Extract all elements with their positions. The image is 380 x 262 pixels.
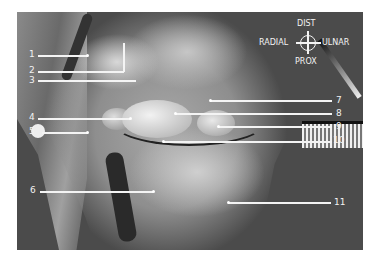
probe-instrument (317, 39, 361, 99)
label-4: 4 (29, 113, 35, 122)
leader-line-4 (38, 118, 130, 120)
compass-prox: PROX (295, 58, 317, 66)
label-6: 6 (30, 186, 36, 195)
leader-line-5 (42, 132, 88, 134)
label-7: 7 (336, 96, 342, 105)
leader-line-10 (163, 141, 332, 143)
leader-dot-5 (86, 131, 89, 134)
leader-line-9 (218, 126, 332, 128)
leader-line-2-vertical (123, 43, 125, 72)
leader-dot-1 (86, 54, 89, 57)
label-8: 8 (336, 109, 342, 118)
label-3: 3 (29, 76, 35, 85)
leader-line-11 (228, 202, 331, 204)
leader-dot-7 (209, 99, 212, 102)
leader-line-8 (175, 113, 332, 115)
compass-horizontal-axis (296, 42, 321, 44)
label-1: 1 (29, 50, 35, 59)
leader-line-3 (38, 80, 136, 82)
joint-crease (112, 98, 266, 146)
compass-radial: RADIAL (259, 39, 288, 47)
label-2: 2 (29, 66, 35, 75)
leader-line-2 (38, 71, 124, 73)
leader-line-1 (38, 55, 88, 57)
leader-dot-11 (227, 201, 230, 204)
compass-dist: DIST (297, 20, 315, 28)
leader-line-6 (40, 191, 153, 193)
label-11: 11 (334, 198, 345, 207)
leader-dot-10 (162, 140, 165, 143)
leader-dot-9 (217, 125, 220, 128)
label-10: 10 (333, 136, 344, 145)
label-5: 5 (29, 127, 35, 136)
leader-line-7 (210, 100, 332, 102)
leader-dot-4 (129, 117, 132, 120)
compass-ulnar: ULNAR (322, 39, 349, 47)
leader-dot-6 (152, 190, 155, 193)
leader-dot-8 (174, 112, 177, 115)
label-9: 9 (336, 122, 342, 131)
